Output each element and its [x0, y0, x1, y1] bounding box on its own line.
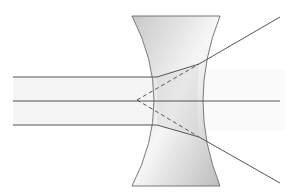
diagram-canvas [0, 0, 293, 194]
beam-band-right [195, 70, 285, 130]
lens-diagram [0, 0, 293, 194]
